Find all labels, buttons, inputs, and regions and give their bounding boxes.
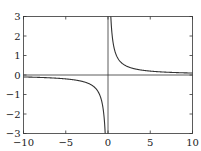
x-tick-label: 5 [147,137,153,148]
y-tick-label: 0 [14,70,20,81]
y-tick-label: 3 [14,11,20,22]
x-tick-label: 0 [105,137,111,148]
y-tick-label: −2 [6,109,21,120]
x-tick-label: 10 [186,137,199,148]
series-line-segment-positive [111,17,193,74]
x-tick-label: −5 [58,137,73,148]
y-tick-label: −3 [6,128,21,139]
y-tick-label: 1 [14,50,20,61]
y-tick-label: −1 [6,89,21,100]
chart: −10−50510 −3−2−10123 [0,0,201,151]
series-line-segment-negative [24,77,106,134]
y-tick-label: 2 [14,31,20,42]
